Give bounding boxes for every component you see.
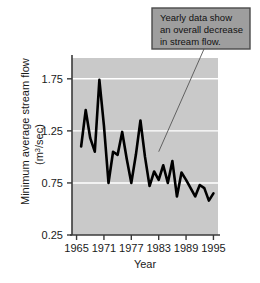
- x-axis-ticks: 196519711977198319891995: [64, 235, 225, 254]
- y-axis-units-prefix: (m: [33, 152, 45, 165]
- x-tick-label-1971: 1971: [92, 242, 116, 254]
- y-tick-label-0.25: 0.25: [42, 229, 63, 241]
- x-tick-label-1983: 1983: [146, 242, 170, 254]
- y-axis-units-suffix: /sec): [33, 124, 45, 148]
- x-tick-label-1989: 1989: [174, 242, 198, 254]
- y-tick-label-1.75: 1.75: [42, 73, 63, 85]
- x-tick-label-1977: 1977: [119, 242, 143, 254]
- callout-line-2: an overall decrease: [160, 24, 243, 35]
- y-axis-title: Minimum average stream flow: [19, 58, 31, 205]
- x-tick-label-1995: 1995: [201, 242, 225, 254]
- stream-flow-figure: 0.250.751.251.75 19651971197719831989199…: [0, 0, 260, 283]
- chart-svg: 0.250.751.251.75 19651971197719831989199…: [0, 0, 260, 283]
- callout-line-3: in stream flow.: [160, 36, 221, 47]
- y-tick-label-0.75: 0.75: [42, 177, 63, 189]
- y-axis-units: (m3/sec): [33, 124, 45, 165]
- x-axis-title: Year: [134, 258, 157, 270]
- y-axis-ticks: 0.250.751.251.75: [42, 73, 72, 241]
- callout-line-1: Yearly data show: [160, 12, 232, 23]
- x-tick-label-1965: 1965: [64, 242, 88, 254]
